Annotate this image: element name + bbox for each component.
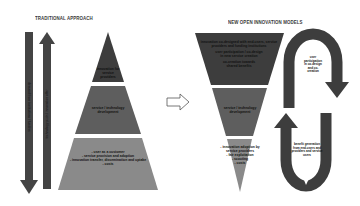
cycle-top-line: creation — [298, 70, 328, 74]
open-tier3-list: - innovation adoption by service provide… — [215, 145, 265, 165]
traditional-tier3-list: - user as a customer - service provision… — [68, 150, 148, 166]
hollow-right-arrow-icon — [167, 94, 189, 110]
cycle-bottom-label: benefit generation from end-users and pr… — [288, 143, 326, 157]
diagram-canvas — [0, 0, 360, 206]
traditional-tier2-label: service / technology development — [86, 106, 130, 114]
open-tier1-list: innovation co-designed with end-users, s… — [200, 40, 278, 68]
traditional-tier3-item: - costs — [68, 162, 148, 166]
open-tier1-item: in new service creation — [200, 54, 278, 58]
open-tier3-item: - costs — [215, 161, 265, 165]
up-arrow-label: technology push / innovation offer — [45, 57, 49, 171]
open-tier1-item: providers and funding institutions — [200, 44, 278, 48]
cycle-top-label: user participation in co-design and co- … — [298, 56, 328, 74]
cycle-bottom-line: users — [288, 154, 326, 158]
traditional-tier1-label: innovation for service providers — [96, 67, 120, 79]
open-tier2-label: service / technology development — [220, 106, 260, 114]
open-tier1-item: shared benefits — [200, 64, 278, 68]
down-arrow-label: demand from institutions / funders — [27, 50, 31, 164]
